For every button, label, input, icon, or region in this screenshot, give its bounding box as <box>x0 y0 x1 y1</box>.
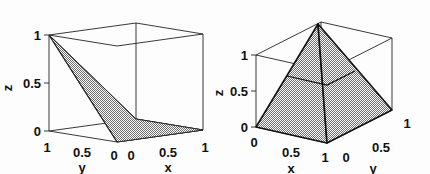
right-y-axis-title: y <box>369 161 377 174</box>
right-z-axis-title: z <box>215 89 226 96</box>
right-z-tick-label-0: 0 <box>241 120 248 135</box>
right-x-tick-label-05: 0.5 <box>282 145 300 160</box>
right-surface-pyramid <box>256 24 392 143</box>
figure-canvas: 1 0.5 0 z 1 0.5 0 y 0 0.5 1 x <box>0 0 430 174</box>
right-x-tick-label-1: 1 <box>321 150 328 165</box>
left-surface-fin <box>49 35 203 142</box>
left-z-tick-label-0: 0 <box>34 124 41 139</box>
left-surface-ridge <box>49 35 136 119</box>
right-z-tick-label-1: 1 <box>241 48 248 63</box>
left-z-tick-label-05: 0.5 <box>23 76 41 91</box>
right-pyramid-face-left <box>256 24 327 143</box>
left-box-ceiling <box>49 23 203 46</box>
left-z-tick-label-1: 1 <box>34 28 41 43</box>
right-y-tick-label-1: 1 <box>403 116 410 131</box>
left-z-ticks <box>44 35 49 131</box>
left-y-axis-title: y <box>78 160 86 174</box>
left-z-axis-title: z <box>0 84 15 91</box>
right-z-ticks <box>251 55 256 127</box>
right-y-tick-label-05: 0.5 <box>372 140 390 155</box>
right-x-tick-label-0: 0 <box>250 135 257 150</box>
left-surface-shading <box>49 35 203 142</box>
right-surface-plot: 1 0.5 0 z 0 0.5 1 x 0 0.5 1 y <box>215 0 430 174</box>
left-y-tick-label-0: 0 <box>110 148 117 163</box>
right-z-tick-label-05: 0.5 <box>230 84 248 99</box>
left-x-tick-label-0: 0 <box>127 148 134 163</box>
left-x-tick-label-1: 1 <box>201 140 208 155</box>
right-x-axis-title: x <box>287 161 295 174</box>
right-y-tick-label-0: 0 <box>342 150 349 165</box>
left-x-axis-title: x <box>164 160 172 174</box>
left-x-tick-label-05: 0.5 <box>159 145 177 160</box>
left-y-tick-label-05: 0.5 <box>73 145 91 160</box>
left-surface-plot: 1 0.5 0 z 1 0.5 0 y 0 0.5 1 x <box>0 0 215 174</box>
right-plot-svg: 1 0.5 0 z 0 0.5 1 x 0 0.5 1 y <box>215 0 430 174</box>
left-y-tick-label-1: 1 <box>43 140 50 155</box>
left-plot-svg: 1 0.5 0 z 1 0.5 0 y 0 0.5 1 x <box>0 0 215 174</box>
